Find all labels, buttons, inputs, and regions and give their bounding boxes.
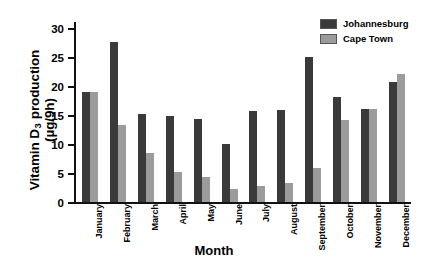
x-axis-tick-label-june: June — [234, 204, 244, 225]
y-axis-tick: 25 — [68, 57, 74, 59]
bar-group — [104, 22, 132, 202]
bar-group — [132, 22, 160, 202]
legend-label: Cape Town — [343, 33, 393, 44]
legend-swatch — [320, 19, 337, 29]
x-axis-tick-label-december: December — [401, 204, 411, 248]
bar-johannesburg-may — [194, 119, 202, 202]
y-axis-tick: 10 — [68, 144, 74, 146]
bar-cape-town-september — [313, 168, 321, 202]
y-axis-tick: 15 — [68, 115, 74, 117]
y-axis-tick-label: 0 — [58, 197, 64, 209]
x-axis-tick-label-august: August — [289, 204, 299, 235]
chart-legend: JohannesburgCape Town — [320, 18, 408, 44]
legend-swatch — [320, 34, 337, 44]
vitamin-d-bar-chart: Vitamin D3 production (µg/9h) 0510152025… — [0, 0, 428, 276]
bar-group — [188, 22, 216, 202]
legend-item: Cape Town — [320, 33, 408, 44]
bar-johannesburg-july — [249, 111, 257, 202]
x-axis-tick-label-july: July — [261, 204, 271, 222]
x-axis-title: Month — [0, 243, 428, 258]
bar-cape-town-december — [397, 74, 405, 202]
bar-cape-town-february — [118, 125, 126, 202]
bar-johannesburg-december — [389, 82, 397, 202]
y-axis-tick-label: 15 — [51, 110, 64, 122]
y-axis-tick: 30 — [68, 28, 74, 30]
bar-group — [327, 22, 355, 202]
legend-item: Johannesburg — [320, 18, 408, 29]
plot-area: 051015202530 — [74, 22, 411, 202]
y-axis-tick-label: 30 — [51, 23, 64, 35]
y-axis-title-line1: Vitamin D — [27, 129, 42, 190]
bar-group — [216, 22, 244, 202]
bar-group — [271, 22, 299, 202]
x-axis-tick-label-march: March — [150, 204, 160, 231]
x-axis-tick-label-january: January — [94, 204, 104, 239]
y-axis-tick: 20 — [68, 86, 74, 88]
bar-groups — [76, 22, 411, 202]
bar-group — [299, 22, 327, 202]
bar-cape-town-november — [369, 109, 377, 202]
y-axis-title-line1-tail: production — [27, 50, 42, 123]
bar-johannesburg-november — [361, 109, 369, 202]
y-axis-title-subscript: 3 — [32, 123, 43, 129]
bar-cape-town-january — [90, 92, 98, 202]
y-axis-tick-label: 25 — [51, 52, 64, 64]
x-axis-tick-label-october: October — [345, 204, 355, 239]
bar-group — [76, 22, 104, 202]
y-axis-tick-label: 10 — [51, 139, 64, 151]
y-axis-tick: 5 — [68, 173, 74, 175]
bar-cape-town-july — [257, 186, 265, 202]
y-axis-tick-label: 5 — [58, 168, 64, 180]
bar-cape-town-march — [146, 153, 154, 202]
x-axis-tick-label-february: February — [122, 204, 132, 243]
bar-johannesburg-february — [110, 42, 118, 202]
bar-cape-town-october — [341, 120, 349, 202]
bar-johannesburg-october — [333, 97, 341, 202]
bar-johannesburg-january — [82, 92, 90, 202]
bar-johannesburg-august — [277, 110, 285, 202]
bar-group — [383, 22, 411, 202]
bar-johannesburg-march — [138, 114, 146, 202]
bar-group — [160, 22, 188, 202]
bar-cape-town-may — [202, 177, 210, 202]
y-axis-tick-label: 20 — [51, 81, 64, 93]
bar-cape-town-august — [285, 183, 293, 202]
x-axis-tick-label-april: April — [178, 204, 188, 225]
bar-cape-town-june — [230, 189, 238, 202]
bar-group — [244, 22, 272, 202]
y-axis-tick: 0 — [68, 202, 74, 204]
x-axis-tick-label-may: May — [206, 204, 216, 222]
bar-johannesburg-june — [222, 144, 230, 202]
bar-johannesburg-april — [166, 116, 174, 202]
x-axis-tick-label-november: November — [373, 204, 383, 248]
legend-label: Johannesburg — [343, 18, 408, 29]
bar-group — [355, 22, 383, 202]
bar-johannesburg-september — [305, 57, 313, 202]
bar-cape-town-april — [174, 172, 182, 202]
